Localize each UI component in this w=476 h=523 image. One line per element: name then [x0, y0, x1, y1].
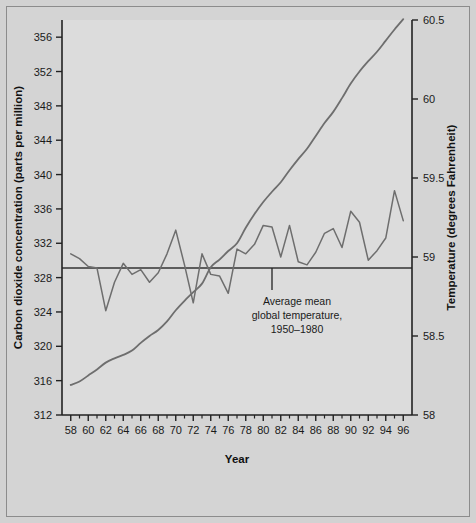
y-tick-label: 356 — [34, 31, 52, 43]
x-tick-label: 82 — [275, 424, 287, 436]
y-tick-label: 316 — [34, 375, 52, 387]
annotation-line: 1950–1980 — [271, 323, 324, 335]
y-tick-label: 352 — [34, 66, 52, 78]
y-tick-label: 324 — [34, 306, 52, 318]
y-tick-label: 340 — [34, 169, 52, 181]
x-tick-label: 60 — [82, 424, 94, 436]
x-tick-label: 88 — [327, 424, 339, 436]
y2-tick-label: 60.5 — [423, 14, 444, 26]
x-tick-label: 72 — [187, 424, 199, 436]
x-tick-label: 74 — [205, 424, 217, 436]
x-tick-label: 64 — [117, 424, 129, 436]
x-tick-label: 86 — [310, 424, 322, 436]
x-tick-label: 90 — [345, 424, 357, 436]
y-tick-label: 336 — [34, 203, 52, 215]
x-tick-label: 96 — [397, 424, 409, 436]
x-tick-label: 58 — [65, 424, 77, 436]
y2-tick-label: 59.5 — [423, 172, 444, 184]
y2-tick-label: 58 — [423, 409, 435, 421]
x-axis-title: Year — [225, 453, 250, 465]
y-tick-label: 332 — [34, 237, 52, 249]
y2-axis-title: Temperature (degrees Fahrenheit) — [445, 124, 457, 310]
y-tick-label: 320 — [34, 340, 52, 352]
y2-tick-label: 60 — [423, 93, 435, 105]
chart-figure: 3123163203243283323363403443483523565858… — [0, 0, 476, 523]
x-tick-label: 76 — [222, 424, 234, 436]
x-tick-label: 84 — [292, 424, 304, 436]
plot-background — [62, 20, 412, 415]
x-tick-label: 70 — [170, 424, 182, 436]
x-tick-label: 78 — [240, 424, 252, 436]
plot-area — [62, 20, 412, 415]
plot-wrapper: 3123163203243283323363403443483523565858… — [0, 0, 476, 523]
y-tick-label: 348 — [34, 100, 52, 112]
x-tick-label: 62 — [100, 424, 112, 436]
y2-tick-label: 58.5 — [423, 330, 444, 342]
x-tick-label: 66 — [135, 424, 147, 436]
chart-svg: 3123163203243283323363403443483523565858… — [0, 0, 476, 523]
y-axis-title: Carbon dioxide concentration (parts per … — [12, 86, 24, 349]
x-tick-label: 94 — [380, 424, 392, 436]
annotation-line: Average mean — [263, 295, 331, 307]
y-tick-label: 312 — [34, 409, 52, 421]
x-tick-label: 80 — [257, 424, 269, 436]
x-tick-label: 68 — [152, 424, 164, 436]
y-tick-label: 328 — [34, 272, 52, 284]
y-tick-label: 344 — [34, 134, 52, 146]
annotation-line: global temperature, — [252, 309, 342, 321]
x-tick-label: 92 — [362, 424, 374, 436]
y2-tick-label: 59 — [423, 251, 435, 263]
